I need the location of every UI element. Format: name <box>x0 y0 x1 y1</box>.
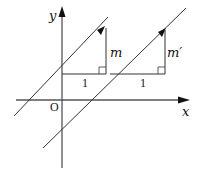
run-label-1: 1 <box>82 76 88 90</box>
slope-diagram: y x O m 1 m′ 1 <box>0 0 201 172</box>
x-axis-arrow-icon <box>178 97 190 104</box>
origin-label: O <box>50 100 59 114</box>
slope-label-m: m <box>110 45 122 60</box>
slope-label-m-prime: m′ <box>167 45 182 60</box>
right-angle-marker-2 <box>158 67 165 74</box>
y-axis-arrow-icon <box>59 6 66 17</box>
x-axis-label: x <box>182 104 190 119</box>
right-angle-marker-1 <box>99 67 106 74</box>
line-1 <box>14 17 108 116</box>
y-axis-label: y <box>48 8 57 23</box>
run-label-2: 1 <box>140 76 146 90</box>
